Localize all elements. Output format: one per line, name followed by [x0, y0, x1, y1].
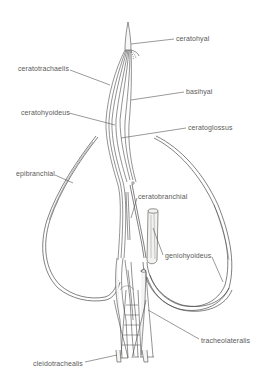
label-tracheolateralis: tracheolateralis [201, 337, 250, 345]
label-geniohyoideus: geniohyoideus [165, 252, 211, 260]
leader-ceratoglossus [121, 128, 186, 138]
leader-geniohyoideus-2 [212, 257, 223, 282]
label-cleidotrachealis: cleidotrachealis [33, 360, 83, 368]
label-basihyal: basihyal [186, 88, 212, 96]
leader-basihyal [131, 92, 184, 100]
leader-ceratotrachaelis [70, 70, 110, 85]
label-ceratobranchial: ceratobranchial [138, 193, 187, 201]
label-epibranchial: epibranchial [16, 170, 55, 178]
label-ceratoglossus: ceratoglossus [188, 124, 233, 132]
label-ceratohyoideus: ceratohyoideus [21, 109, 70, 117]
hyoid-apparatus-illustration [0, 0, 262, 382]
label-ceratotrachaelis: ceratotrachaelis [18, 65, 69, 73]
leader-ceratohyoideus [69, 113, 115, 125]
leader-ceratohyal [131, 39, 174, 44]
label-ceratohyal: ceratohyal [176, 35, 209, 43]
leader-cleidotrachealis [85, 355, 117, 362]
diagram-stage: ceratohyal ceratotrachaelis basihyal cer… [0, 0, 262, 382]
leader-epibranchial [55, 175, 73, 183]
leader-tracheolateralis [148, 310, 199, 339]
